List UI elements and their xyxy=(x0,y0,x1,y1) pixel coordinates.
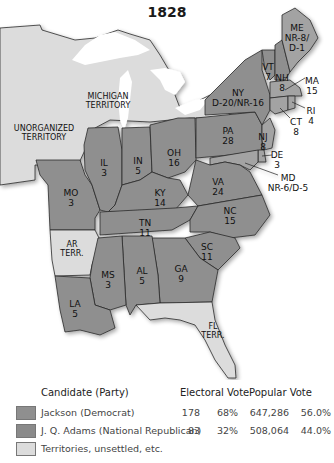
pv-count: 508,064 xyxy=(244,425,289,436)
legend-label: J. Q. Adams (National Republican) xyxy=(41,425,201,436)
label-ct: CT8 xyxy=(290,117,302,137)
label-vt: VT7 xyxy=(262,62,274,82)
ev-count: 178 xyxy=(180,407,200,418)
label-de: DE3 xyxy=(271,150,284,170)
ev-pct: 68% xyxy=(208,407,238,418)
legend-label: Jackson (Democrat) xyxy=(41,407,134,418)
label-tn: TN11 xyxy=(139,218,151,238)
pv-count: 647,286 xyxy=(244,407,289,418)
label-nj: NJ8 xyxy=(258,132,267,152)
legend-row-jackson: Jackson (Democrat) 178 68% 647,286 56.0% xyxy=(16,406,334,422)
legend-row-territories: Territories, unsettled, etc. xyxy=(16,442,334,458)
label-fl-territory: FLTERR. xyxy=(201,322,224,340)
ev-pct: 32% xyxy=(208,425,238,436)
label-in: IN5 xyxy=(133,156,142,176)
territory-fl xyxy=(136,302,236,378)
label-nh: NH8 xyxy=(275,73,289,93)
legend-label: Territories, unsettled, etc. xyxy=(41,443,163,454)
label-ga: GA9 xyxy=(174,264,187,284)
label-sc: SC11 xyxy=(201,242,213,262)
label-ri: RI4 xyxy=(307,106,316,126)
legend-header-electoral: Electoral Vote xyxy=(180,387,249,398)
label-il: IL3 xyxy=(100,158,108,178)
swatch-territories xyxy=(16,442,36,456)
ev-count: 83 xyxy=(180,425,200,436)
legend: Candidate (Party) Electoral Vote Popular… xyxy=(0,384,334,463)
label-michigan-territory: MICHIGANTERRITORY xyxy=(86,92,131,110)
map-title: 1828 xyxy=(0,4,334,20)
pv-pct: 56.0% xyxy=(296,407,331,418)
legend-header-candidate: Candidate (Party) xyxy=(41,387,129,398)
label-ny: NYD-20/NR-16 xyxy=(212,88,264,108)
swatch-adams xyxy=(16,424,36,438)
label-mo: MO3 xyxy=(64,188,79,208)
label-md: MDNR-6/D-5 xyxy=(268,173,309,193)
legend-row-adams: J. Q. Adams (National Republican) 83 32%… xyxy=(16,424,334,440)
label-ky: KY14 xyxy=(154,188,165,208)
label-oh: OH16 xyxy=(167,148,181,168)
label-pa: PA28 xyxy=(222,126,233,146)
label-al: AL5 xyxy=(136,266,147,286)
swatch-jackson xyxy=(16,406,36,420)
label-va: VA24 xyxy=(212,177,224,197)
election-map-1828: 1828 MICHIGANTERRITORY UNORGANIZEDTERRIT… xyxy=(0,0,334,380)
label-nc: NC15 xyxy=(223,206,236,226)
label-unorganized-territory: UNORGANIZEDTERRITORY xyxy=(14,124,74,142)
legend-header-popular: Popular Vote xyxy=(249,387,312,398)
label-la: LA5 xyxy=(69,299,80,319)
pv-pct: 44.0% xyxy=(296,425,331,436)
label-ms: MS3 xyxy=(101,270,114,290)
label-me: MENR-8/D-1 xyxy=(285,23,310,53)
state-ct xyxy=(270,96,288,114)
label-ar-territory: ARTERR. xyxy=(60,240,83,258)
label-ma: MA15 xyxy=(305,76,319,96)
